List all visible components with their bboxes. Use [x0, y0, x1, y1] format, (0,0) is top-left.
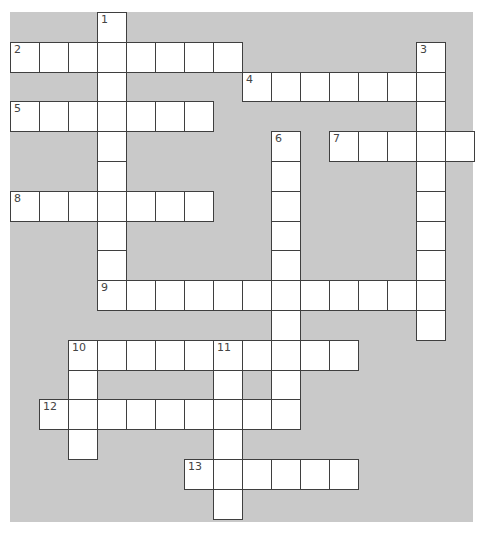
crossword-cell[interactable]: 12: [39, 399, 69, 430]
crossword-cell[interactable]: [300, 459, 330, 490]
crossword-cell[interactable]: [184, 280, 214, 311]
crossword-cell[interactable]: [97, 131, 127, 162]
crossword-cell[interactable]: [271, 459, 301, 490]
crossword-cell[interactable]: 10: [68, 340, 98, 371]
crossword-cell[interactable]: [184, 191, 214, 222]
crossword-cell[interactable]: [416, 280, 446, 311]
crossword-cell[interactable]: [329, 459, 359, 490]
crossword-cell[interactable]: [126, 191, 156, 222]
crossword-cell[interactable]: [416, 72, 446, 103]
crossword-cell[interactable]: [416, 161, 446, 192]
crossword-cell[interactable]: [329, 340, 359, 371]
crossword-cell[interactable]: [358, 72, 388, 103]
crossword-cell[interactable]: [242, 399, 272, 430]
crossword-cell[interactable]: 7: [329, 131, 359, 162]
crossword-cell[interactable]: [271, 370, 301, 401]
crossword-cell[interactable]: [155, 191, 185, 222]
crossword-cell[interactable]: [184, 399, 214, 430]
crossword-board: 19234567810111213: [10, 12, 473, 522]
crossword-cell[interactable]: [242, 340, 272, 371]
crossword-cell[interactable]: [271, 221, 301, 252]
crossword-cell[interactable]: [213, 489, 243, 520]
crossword-cell[interactable]: [97, 191, 127, 222]
crossword-cell[interactable]: [242, 459, 272, 490]
crossword-cell[interactable]: [126, 399, 156, 430]
crossword-cell[interactable]: 5: [10, 101, 40, 132]
crossword-cell[interactable]: [242, 280, 272, 311]
crossword-cell[interactable]: [97, 399, 127, 430]
clue-number: 13: [188, 461, 202, 473]
crossword-cell[interactable]: [213, 459, 243, 490]
crossword-cell[interactable]: [39, 191, 69, 222]
crossword-cell[interactable]: [184, 340, 214, 371]
crossword-cell[interactable]: [39, 42, 69, 73]
crossword-cell[interactable]: [97, 250, 127, 281]
crossword-cell[interactable]: [416, 250, 446, 281]
crossword-cell[interactable]: [126, 42, 156, 73]
crossword-cell[interactable]: [184, 101, 214, 132]
crossword-cell[interactable]: [271, 280, 301, 311]
crossword-cell[interactable]: [271, 250, 301, 281]
crossword-cell[interactable]: [97, 72, 127, 103]
crossword-cell[interactable]: [68, 42, 98, 73]
crossword-cell[interactable]: [213, 42, 243, 73]
crossword-cell[interactable]: [213, 399, 243, 430]
crossword-cell[interactable]: 9: [97, 280, 127, 311]
crossword-cell[interactable]: [416, 101, 446, 132]
crossword-cell[interactable]: 11: [213, 340, 243, 371]
crossword-cell[interactable]: [271, 340, 301, 371]
crossword-cell[interactable]: [213, 370, 243, 401]
crossword-cell[interactable]: [155, 42, 185, 73]
crossword-cell[interactable]: [300, 72, 330, 103]
crossword-cell[interactable]: [329, 280, 359, 311]
crossword-cell[interactable]: [213, 280, 243, 311]
crossword-cell[interactable]: [126, 280, 156, 311]
crossword-cell[interactable]: [358, 131, 388, 162]
crossword-cell[interactable]: [155, 399, 185, 430]
crossword-cell[interactable]: [271, 191, 301, 222]
crossword-cell[interactable]: [97, 161, 127, 192]
crossword-cell[interactable]: [271, 310, 301, 341]
crossword-cell[interactable]: [155, 101, 185, 132]
crossword-cell[interactable]: [126, 101, 156, 132]
crossword-cell[interactable]: [387, 131, 417, 162]
crossword-cell[interactable]: 6: [271, 131, 301, 162]
crossword-cell[interactable]: [97, 221, 127, 252]
crossword-cell[interactable]: 2: [10, 42, 40, 73]
crossword-cell[interactable]: 8: [10, 191, 40, 222]
crossword-cell[interactable]: [416, 191, 446, 222]
crossword-cell[interactable]: [213, 429, 243, 460]
crossword-cell[interactable]: [271, 72, 301, 103]
crossword-cell[interactable]: [416, 310, 446, 341]
crossword-cell[interactable]: [155, 280, 185, 311]
crossword-cell[interactable]: 3: [416, 42, 446, 73]
crossword-cell[interactable]: [271, 399, 301, 430]
crossword-cell[interactable]: [68, 370, 98, 401]
crossword-cell[interactable]: [387, 72, 417, 103]
crossword-cell[interactable]: 4: [242, 72, 272, 103]
crossword-cell[interactable]: [300, 280, 330, 311]
crossword-cell[interactable]: [271, 161, 301, 192]
crossword-cell[interactable]: [416, 131, 446, 162]
crossword-cell[interactable]: [97, 101, 127, 132]
crossword-cell[interactable]: [155, 340, 185, 371]
crossword-cell[interactable]: [358, 280, 388, 311]
crossword-cell[interactable]: [39, 101, 69, 132]
crossword-cell[interactable]: [68, 429, 98, 460]
crossword-cell[interactable]: [329, 72, 359, 103]
crossword-cell[interactable]: [300, 340, 330, 371]
crossword-cell[interactable]: 1: [97, 12, 127, 43]
crossword-cell[interactable]: [184, 42, 214, 73]
crossword-cell[interactable]: [445, 131, 475, 162]
crossword-cell[interactable]: [68, 101, 98, 132]
clue-number: 9: [101, 282, 108, 294]
crossword-cell[interactable]: 13: [184, 459, 214, 490]
crossword-cell[interactable]: [387, 280, 417, 311]
clue-number: 2: [14, 44, 21, 56]
crossword-cell[interactable]: [97, 340, 127, 371]
crossword-cell[interactable]: [416, 221, 446, 252]
crossword-cell[interactable]: [68, 191, 98, 222]
crossword-cell[interactable]: [68, 399, 98, 430]
crossword-cell[interactable]: [97, 42, 127, 73]
crossword-cell[interactable]: [126, 340, 156, 371]
